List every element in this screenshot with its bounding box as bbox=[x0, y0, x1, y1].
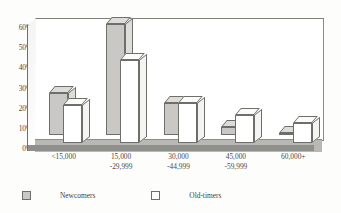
legend-swatch-newcomers-icon bbox=[22, 191, 31, 200]
x-axis-category-label: 60,000+ bbox=[265, 152, 322, 162]
x-axis-category-label: 45,000-59,999 bbox=[207, 152, 264, 172]
x-label-line-1: <15,000 bbox=[51, 152, 76, 161]
bar-group bbox=[92, 17, 149, 148]
x-label-line-1: 45,000 bbox=[226, 152, 246, 161]
bar-side-face bbox=[254, 109, 262, 143]
legend-label-newcomers: Newcomers bbox=[60, 191, 95, 200]
y-axis-line bbox=[27, 25, 28, 151]
bar-side-face bbox=[197, 96, 205, 143]
bar-chart-figure: 0%10%20%30%40%50%60% <15,00015,000-29,99… bbox=[0, 0, 341, 213]
bar-front-face bbox=[293, 123, 312, 143]
bar-oldtimers bbox=[178, 103, 197, 143]
bar-group bbox=[150, 17, 207, 148]
bar-side-face bbox=[139, 54, 147, 143]
legend-label-oldtimers: Old-timers bbox=[189, 191, 221, 200]
bar-front-face bbox=[178, 103, 197, 143]
bar-front-face bbox=[63, 105, 82, 143]
legend-item-newcomers: Newcomers bbox=[22, 191, 95, 200]
bar-side-face bbox=[82, 98, 90, 143]
bar-oldtimers bbox=[63, 105, 82, 143]
bar-group bbox=[35, 17, 92, 148]
bar-front-face bbox=[120, 60, 139, 143]
x-axis: <15,00015,000-29,99930,000-44,99945,000-… bbox=[35, 152, 322, 178]
legend-item-oldtimers: Old-timers bbox=[151, 191, 221, 200]
x-label-line-2: -59,999 bbox=[207, 162, 264, 172]
bar-group bbox=[207, 17, 264, 148]
x-label-line-1: 60,000+ bbox=[281, 152, 306, 161]
bar-oldtimers bbox=[120, 60, 139, 143]
x-axis-category-label: 30,000-44,999 bbox=[150, 152, 207, 172]
x-axis-category-label: 15,000-29,999 bbox=[92, 152, 149, 172]
plot-area bbox=[35, 18, 322, 148]
bar-oldtimers bbox=[235, 115, 254, 143]
bar-group bbox=[265, 17, 322, 148]
x-label-line-2: -44,999 bbox=[150, 162, 207, 172]
bar-oldtimers bbox=[293, 123, 312, 143]
bar-front-face bbox=[235, 115, 254, 143]
x-label-line-1: 15,000 bbox=[111, 152, 131, 161]
x-label-line-1: 30,000 bbox=[168, 152, 188, 161]
x-axis-category-label: <15,000 bbox=[35, 152, 92, 162]
chart-legend: Newcomers Old-timers bbox=[22, 188, 221, 202]
x-label-line-2: -29,999 bbox=[92, 162, 149, 172]
legend-swatch-oldtimers-icon bbox=[151, 191, 160, 200]
